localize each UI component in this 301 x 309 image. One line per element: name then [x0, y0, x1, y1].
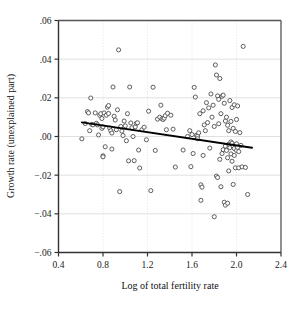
data-point — [211, 103, 215, 107]
data-point — [89, 96, 93, 100]
data-point — [227, 169, 231, 173]
y-tick-label: −.02 — [34, 171, 51, 181]
y-tick-label: .00 — [40, 132, 52, 142]
data-point — [197, 131, 201, 135]
x-tick-label: 2.4 — [275, 260, 287, 270]
data-point — [97, 133, 101, 137]
data-point — [227, 129, 231, 133]
data-point — [203, 129, 207, 133]
data-point — [238, 131, 242, 135]
x-tick-label: 2.0 — [231, 260, 243, 270]
data-point — [107, 111, 111, 115]
data-point — [80, 137, 84, 141]
data-point — [226, 156, 230, 160]
data-point — [218, 76, 222, 80]
data-point — [120, 129, 124, 133]
data-point — [206, 121, 210, 125]
x-tick-label: 1.2 — [142, 260, 154, 270]
data-point — [216, 175, 220, 179]
data-point — [88, 129, 92, 133]
data-point — [181, 148, 185, 152]
x-axis-title: Log of total fertility rate — [121, 280, 219, 291]
data-point — [191, 151, 195, 155]
data-point — [219, 112, 223, 116]
data-point — [218, 157, 222, 161]
data-point — [208, 146, 212, 150]
y-tick-label: .02 — [40, 93, 52, 103]
data-point — [246, 192, 250, 196]
data-point — [204, 101, 208, 105]
y-tick-label: .06 — [40, 16, 52, 26]
data-point — [212, 124, 216, 128]
data-point — [230, 159, 234, 163]
data-point — [93, 111, 97, 115]
y-axis-title: Growth rate (unexplained part) — [5, 74, 17, 198]
data-point — [103, 145, 107, 149]
y-tick-label: −.04 — [34, 209, 51, 219]
data-point — [213, 63, 217, 67]
data-point — [209, 92, 213, 96]
data-point — [159, 103, 163, 107]
data-point — [113, 118, 117, 122]
data-point — [111, 85, 115, 89]
data-point — [149, 189, 153, 193]
data-point — [101, 155, 105, 159]
data-point — [228, 98, 232, 102]
data-point — [217, 97, 221, 101]
data-point — [189, 165, 193, 169]
data-point — [100, 116, 104, 120]
data-point — [217, 122, 221, 126]
data-point — [200, 185, 204, 189]
data-point — [171, 127, 175, 131]
data-point — [219, 185, 223, 189]
data-point — [123, 124, 127, 128]
data-point — [147, 109, 151, 113]
data-point — [142, 125, 146, 129]
y-tick-label: −.06 — [34, 248, 51, 258]
data-point — [151, 85, 155, 89]
x-tick-label: 0.4 — [53, 260, 65, 270]
data-point — [192, 85, 196, 89]
data-point — [201, 109, 205, 113]
y-tick-label: .04 — [40, 55, 52, 65]
data-point — [241, 44, 245, 48]
data-point — [110, 147, 114, 151]
data-point — [127, 159, 131, 163]
data-point — [153, 148, 157, 152]
data-point — [117, 48, 121, 52]
data-point — [138, 166, 142, 170]
data-point — [237, 150, 241, 154]
data-point — [210, 115, 214, 119]
data-point — [164, 128, 168, 132]
data-point — [222, 101, 226, 105]
data-point — [135, 121, 139, 125]
data-point — [214, 73, 218, 77]
data-point — [110, 131, 114, 135]
data-point — [231, 182, 235, 186]
scatter-plot-figure: .06.04.02.00−.02−.04−.06 0.40.81.21.62.0… — [0, 0, 301, 309]
data-point — [173, 165, 177, 169]
data-point — [236, 104, 240, 108]
data-point — [121, 133, 125, 137]
data-point — [137, 148, 141, 152]
data-point — [122, 119, 126, 123]
data-point — [169, 113, 173, 117]
x-tick-label: 0.8 — [97, 260, 109, 270]
data-point — [232, 153, 236, 157]
data-point — [193, 95, 197, 99]
data-point — [188, 129, 192, 133]
data-point — [234, 117, 238, 121]
data-point — [224, 115, 228, 119]
data-point — [118, 190, 122, 194]
data-point — [229, 119, 233, 123]
data-point — [233, 129, 237, 133]
data-point — [201, 153, 205, 157]
data-point — [144, 138, 148, 142]
data-point — [190, 133, 194, 137]
data-point — [212, 215, 216, 219]
data-point — [221, 93, 225, 97]
data-point — [199, 198, 203, 202]
data-point — [226, 123, 230, 127]
data-point — [207, 106, 211, 110]
data-point — [243, 165, 247, 169]
